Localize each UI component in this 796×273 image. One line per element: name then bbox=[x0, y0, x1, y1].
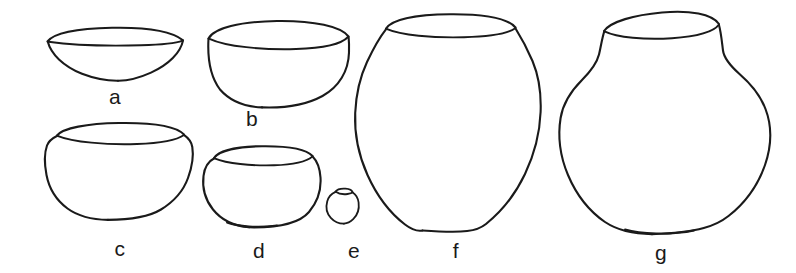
vessel-label-b: b bbox=[246, 108, 258, 129]
vessel-b-drawing bbox=[208, 21, 349, 108]
vessel-label-e: e bbox=[348, 240, 360, 261]
vessel-c-drawing bbox=[45, 123, 193, 220]
vessel-label-c: c bbox=[115, 238, 126, 259]
vessel-label-g: g bbox=[655, 242, 667, 263]
vessel-label-d: d bbox=[253, 240, 265, 261]
vessel-g-drawing bbox=[559, 12, 770, 234]
vessel-label-f: f bbox=[453, 240, 459, 261]
vessel-forms-plate: a b c d e f g bbox=[0, 0, 796, 273]
vessel-label-a: a bbox=[109, 86, 121, 107]
vessel-a-drawing bbox=[48, 28, 184, 81]
vessel-drawings-svg bbox=[0, 0, 796, 273]
vessel-e-drawing bbox=[327, 189, 359, 224]
vessel-d-drawing bbox=[203, 146, 320, 227]
vessel-f-drawing bbox=[355, 14, 541, 232]
